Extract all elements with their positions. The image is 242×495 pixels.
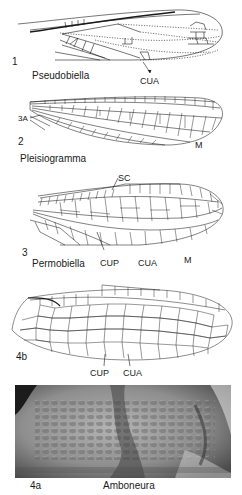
panel-number: 4b bbox=[16, 352, 27, 362]
panel-3-permobiella: SC 3 Permobiella CUP CUA M bbox=[0, 170, 242, 270]
panel-4b-amboneura-drawing: 4b CUP CUA bbox=[0, 270, 242, 380]
vein-label-cua: CUA bbox=[138, 258, 157, 268]
panel-1-pseudobiella: 1 Pseudobiella CUA bbox=[0, 0, 242, 90]
fossil-photograph-amboneura bbox=[15, 385, 231, 478]
vein-label-m: M bbox=[184, 255, 192, 265]
panel-number: 4a bbox=[30, 481, 41, 491]
fossil-texture bbox=[15, 385, 231, 478]
leader-lines bbox=[0, 170, 242, 270]
leader-lines bbox=[0, 270, 242, 380]
panel-number: 3 bbox=[22, 248, 28, 258]
genus-name: Amboneura bbox=[103, 481, 155, 491]
leader-line bbox=[0, 0, 242, 90]
vein-label-cup: CUP bbox=[100, 258, 119, 268]
vein-label-cua: CUA bbox=[140, 76, 159, 86]
vein-label-sc: SC bbox=[118, 173, 131, 183]
vein-label-m: M bbox=[195, 140, 203, 150]
vein-label-cua: CUA bbox=[123, 368, 142, 378]
genus-name: Pleisiogramma bbox=[20, 154, 86, 164]
panel-number: 2 bbox=[18, 137, 24, 147]
genus-name: Permobiella bbox=[32, 259, 85, 269]
panel-2-pleisiogramma: 3A 2 M Pleisiogramma bbox=[0, 90, 242, 170]
vein-label-3a: 3A bbox=[18, 114, 28, 124]
vein-label-cup: CUP bbox=[90, 368, 109, 378]
